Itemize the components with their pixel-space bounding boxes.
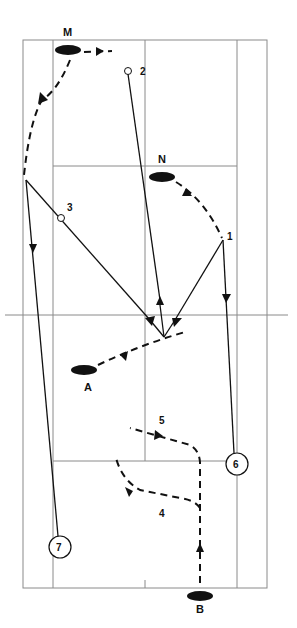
marker-1-label: 1 (227, 231, 233, 242)
shot-3-line (26, 180, 150, 320)
shot-trajectories (26, 74, 234, 536)
player-b-marker (187, 591, 213, 601)
arrow-head-icon (96, 47, 104, 56)
player-a-label: A (84, 381, 92, 393)
player-m-marker (55, 45, 81, 55)
path-4 (116, 458, 200, 508)
shot-2-line (128, 74, 160, 300)
marker-6-label: 6 (233, 459, 239, 470)
arrow-head-icon (154, 430, 163, 440)
marker-3-dot (58, 215, 65, 222)
marker-2-dot (125, 68, 132, 75)
player-b-label: B (196, 603, 204, 615)
court-lines (5, 40, 288, 588)
arrow-head-icon (172, 318, 182, 327)
arrow-head-icon (196, 543, 204, 552)
marker-3-label: 3 (67, 202, 73, 213)
marker-4-label: 4 (159, 508, 165, 519)
arrow-head-icon (125, 487, 133, 497)
player-n-label: N (158, 153, 166, 165)
shot-markers: 1 2 3 4 5 6 7 (49, 66, 248, 558)
player-n-marker (149, 172, 175, 182)
player-a-marker (71, 365, 97, 375)
path-m-to-left (24, 60, 70, 175)
player-b: B (187, 591, 213, 615)
player-m-label: M (63, 26, 72, 38)
shot-6-line (223, 240, 234, 453)
arrow-head-icon (29, 244, 37, 253)
arrow-head-icon (222, 294, 231, 303)
marker-2-label: 2 (140, 66, 146, 77)
shot-1-line (175, 240, 223, 320)
arrow-head-icon (38, 92, 48, 104)
path-a-forward (98, 332, 185, 365)
marker-5-label: 5 (159, 415, 165, 426)
player-a: A (71, 365, 97, 393)
player-n: N (149, 153, 175, 182)
marker-7-label: 7 (56, 542, 62, 553)
arrow-head-icon (156, 296, 164, 305)
court-diagram: M N A B (0, 0, 297, 628)
path-n-to-1 (176, 182, 222, 238)
